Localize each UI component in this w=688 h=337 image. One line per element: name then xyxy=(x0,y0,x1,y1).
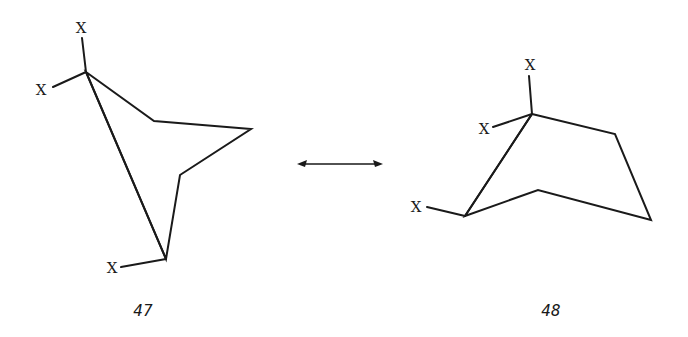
atom-label-x: X xyxy=(36,81,47,99)
compound-number-47: 47 xyxy=(133,301,153,320)
ring-47 xyxy=(86,72,251,259)
atom-label-x: X xyxy=(107,259,118,277)
atom-label-x: X xyxy=(76,19,87,37)
substituent-bond-47-left xyxy=(53,72,86,87)
substituent-bond-48-left xyxy=(493,114,532,127)
substituent-bond-47-bottom xyxy=(121,259,166,267)
substituent-bond-47-top xyxy=(82,38,86,72)
atom-label-x: X xyxy=(411,198,422,216)
equilibrium-arrow-icon xyxy=(297,160,383,167)
substituent-bond-48-top xyxy=(529,76,532,114)
atom-label-x: X xyxy=(479,120,490,138)
bridge-bond-48 xyxy=(465,114,532,216)
substituent-bond-48-bottom xyxy=(427,207,465,216)
conformation-diagram: X X X 47 X X X 48 xyxy=(0,0,688,337)
compound-number-48: 48 xyxy=(541,301,560,320)
atom-label-x: X xyxy=(525,56,536,74)
ring-48 xyxy=(465,114,651,220)
structure-47: X X X 47 xyxy=(36,19,251,320)
structure-48: X X X 48 xyxy=(411,56,651,320)
